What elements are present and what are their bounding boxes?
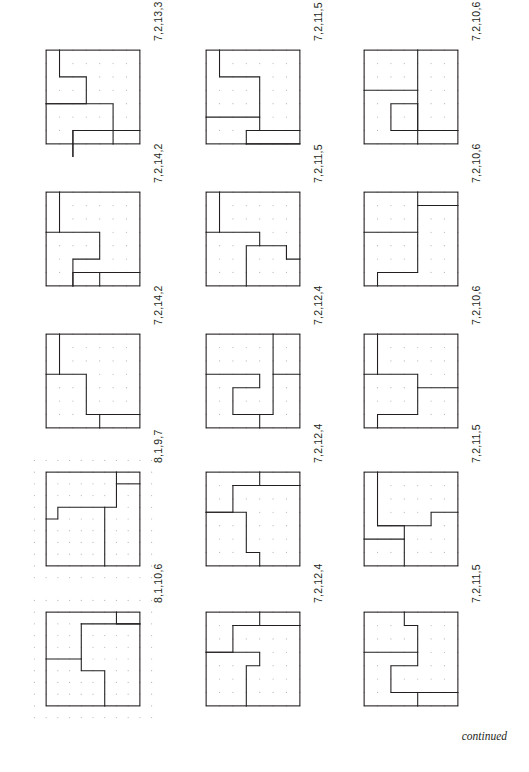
- lattice-dot: [259, 218, 260, 219]
- lattice-dot: [151, 705, 152, 706]
- figure-cell: 7,2,14,2: [0, 317, 176, 457]
- lattice-dot: [404, 678, 405, 679]
- lattice-dot: [272, 665, 273, 666]
- lattice-dot: [272, 103, 273, 104]
- lattice-dot: [92, 460, 93, 461]
- lattice-dot: [151, 577, 152, 578]
- cut-lines: [206, 50, 300, 144]
- lattice-dot: [126, 218, 127, 219]
- lattice-dot: [92, 554, 93, 555]
- lattice-dot: [34, 530, 35, 531]
- lattice-dot: [404, 347, 405, 348]
- cut-lines: [46, 192, 140, 286]
- lattice-dot: [57, 495, 58, 496]
- lattice-dot: [72, 90, 73, 91]
- lattice-dot: [92, 717, 93, 718]
- lattice-dot: [430, 245, 431, 246]
- lattice-dot: [232, 552, 233, 553]
- lattice-dot: [69, 554, 70, 555]
- lattice-dot: [417, 360, 418, 361]
- lattice-dot: [259, 692, 260, 693]
- lattice-dot: [417, 512, 418, 513]
- outer-square: [206, 334, 300, 428]
- lattice-dot: [430, 272, 431, 273]
- lattice-dot: [69, 647, 70, 648]
- lattice-dot: [126, 232, 127, 233]
- lattice-dot: [34, 635, 35, 636]
- lattice-dot: [444, 103, 445, 104]
- lattice-dot: [128, 507, 129, 508]
- lattice-dot: [112, 205, 113, 206]
- lattice-dot: [34, 542, 35, 543]
- lattice-dot: [390, 485, 391, 486]
- lattice-dot: [86, 360, 87, 361]
- lattice-dot: [104, 495, 105, 496]
- lattice-dot: [112, 360, 113, 361]
- lattice-dot: [34, 612, 35, 613]
- lattice-dot: [99, 347, 100, 348]
- dissection-figure: [193, 321, 313, 441]
- figure-cell: 7,2,14,2: [0, 175, 176, 315]
- lattice-dot: [57, 682, 58, 683]
- lattice-dot: [72, 387, 73, 388]
- lattice-dot: [69, 682, 70, 683]
- dissection-figure: [33, 179, 153, 299]
- lattice-dot: [390, 347, 391, 348]
- outer-square: [364, 192, 458, 286]
- lattice-dot: [99, 205, 100, 206]
- lattice-dot: [272, 552, 273, 553]
- lattice-dot: [404, 218, 405, 219]
- lattice-dot: [99, 218, 100, 219]
- cut-line: [364, 334, 377, 374]
- lattice-dot: [430, 374, 431, 375]
- cut-line: [46, 50, 86, 104]
- lattice-dot: [81, 518, 82, 519]
- lattice-dot: [390, 76, 391, 77]
- lattice-dot: [444, 90, 445, 91]
- lattice-dot: [272, 76, 273, 77]
- lattice-dot: [151, 635, 152, 636]
- lattice-dot: [444, 258, 445, 259]
- lattice-dot: [417, 485, 418, 486]
- lattice-dot: [444, 538, 445, 539]
- lattice-dot: [232, 130, 233, 131]
- lattice-dot: [151, 682, 152, 683]
- lattice-dot: [86, 63, 87, 64]
- lattice-dot: [86, 347, 87, 348]
- lattice-dot: [286, 692, 287, 693]
- lattice-dot: [92, 577, 93, 578]
- outer-square: [206, 192, 300, 286]
- lattice-dot: [430, 625, 431, 626]
- lattice-dot: [57, 483, 58, 484]
- lattice-dot: [246, 90, 247, 91]
- lattice-dot: [219, 485, 220, 486]
- lattice-dot: [246, 103, 247, 104]
- lattice-dot: [444, 485, 445, 486]
- cut-lines: [46, 50, 140, 157]
- lattice-dot: [126, 116, 127, 117]
- cut-line: [260, 612, 300, 625]
- lattice-dot: [444, 272, 445, 273]
- cut-line: [391, 652, 458, 692]
- lattice-dot: [34, 577, 35, 578]
- lattice-dot: [72, 400, 73, 401]
- lattice-dot: [404, 360, 405, 361]
- lattice-dot: [46, 577, 47, 578]
- lattice-dot: [219, 538, 220, 539]
- lattice-dot: [404, 76, 405, 77]
- dissection-figure: [351, 599, 471, 719]
- lattice-dot: [286, 76, 287, 77]
- lattice-dot: [34, 518, 35, 519]
- lattice-dot: [286, 90, 287, 91]
- lattice-dot: [69, 717, 70, 718]
- lattice-dot: [272, 525, 273, 526]
- lattice-dot: [59, 245, 60, 246]
- lattice-dot: [232, 525, 233, 526]
- lattice-dot: [57, 542, 58, 543]
- continued-note: continued: [462, 730, 507, 742]
- lattice-dot: [151, 518, 152, 519]
- lattice-dot: [81, 682, 82, 683]
- lattice-dot: [116, 670, 117, 671]
- lattice-dot: [112, 245, 113, 246]
- lattice-dot: [246, 498, 247, 499]
